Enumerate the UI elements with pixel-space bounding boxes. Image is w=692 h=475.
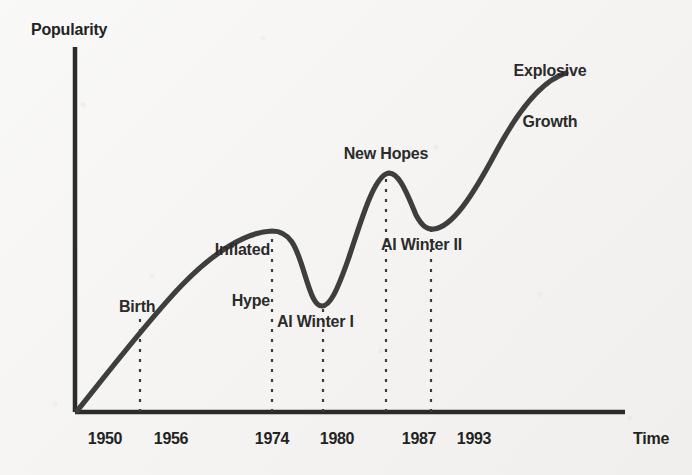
x-axis-title: Time — [633, 430, 669, 448]
annotation-explosive-growth-line1: Explosive — [480, 62, 620, 79]
x-tick-label-1956: 1956 — [136, 430, 206, 448]
annotation-new-hopes: New Hopes — [321, 145, 451, 162]
annotation-ai-winter-2: AI Winter II — [381, 236, 462, 253]
annotation-explosive-growth-line2: Growth — [480, 113, 620, 130]
x-tick-label-1974: 1974 — [237, 430, 307, 448]
chart-canvas: Popularity Time 1950 1956 1974 1980 1987… — [0, 0, 692, 475]
annotation-ai-winter-1: AI Winter I — [277, 313, 354, 330]
x-tick-label-1993: 1993 — [439, 430, 509, 448]
y-axis-title: Popularity — [31, 21, 107, 39]
annotation-explosive-growth: Explosive Growth — [480, 28, 620, 164]
annotation-inflated-hype: Inflated Hype — [160, 207, 270, 343]
x-tick-label-1950: 1950 — [70, 430, 140, 448]
annotation-birth: Birth — [119, 298, 155, 315]
annotation-inflated-hype-line2: Hype — [160, 292, 270, 309]
x-tick-label-1980: 1980 — [302, 430, 372, 448]
annotation-inflated-hype-line1: Inflated — [160, 241, 270, 258]
